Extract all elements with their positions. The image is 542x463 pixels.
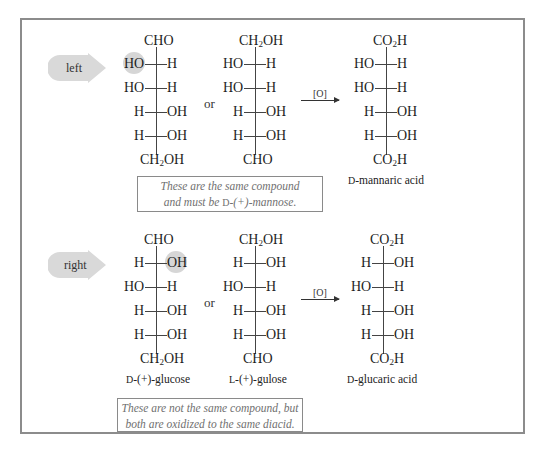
row1-left: H [134, 255, 144, 271]
bond [145, 287, 167, 288]
bond [145, 112, 167, 113]
row1-left: H [233, 255, 243, 271]
bond [244, 88, 266, 89]
bond [145, 263, 167, 264]
bond [244, 287, 266, 288]
bond [372, 287, 394, 288]
product-bottom-group: CO2H [373, 152, 407, 168]
row1-right: OH [266, 255, 286, 271]
row4-left: H [134, 128, 144, 144]
row3-right: OH [167, 104, 187, 120]
bond [375, 64, 397, 65]
row2-right: H [266, 279, 276, 295]
row2-right: H [167, 279, 177, 295]
tag-right-label: right [64, 257, 87, 273]
row2-right: H [167, 80, 177, 96]
fischer-bottom-group: CH2OH [140, 351, 184, 367]
row3-right: OH [397, 104, 417, 120]
row4-right: OH [266, 327, 286, 343]
bond [244, 136, 266, 137]
row3-right: OH [266, 303, 286, 319]
bond [372, 335, 394, 336]
note-same-compound: These are the same compound and must be … [137, 176, 323, 212]
row1-right: H [167, 56, 177, 72]
fischer-top-group: CH2OH [239, 232, 283, 248]
row1-left: H [361, 255, 371, 271]
compound-name-gulose: L-(+)-gulose [229, 373, 287, 385]
reagent-label: [O] [313, 287, 327, 298]
row4-right: OH [167, 128, 187, 144]
bond [372, 311, 394, 312]
product-bottom-group: CO2H [370, 351, 404, 367]
bond [244, 64, 266, 65]
row1-left: HO [354, 56, 374, 72]
bond [145, 136, 167, 137]
row2-left: HO [124, 80, 144, 96]
row1-right: H [266, 56, 276, 72]
row3-right: OH [167, 303, 187, 319]
fischer-bottom-group: CHO [243, 351, 273, 367]
row2-left: HO [223, 80, 243, 96]
product-name: D-glucaric acid [347, 373, 417, 385]
bond [375, 88, 397, 89]
row3-left: H [134, 104, 144, 120]
row3-right: OH [394, 303, 414, 319]
bond [145, 311, 167, 312]
row1-left: HO [223, 56, 243, 72]
fischer-top-group: CHO [144, 33, 174, 49]
row4-left: H [134, 327, 144, 343]
row2-left: HO [223, 279, 243, 295]
reagent-label: [O] [313, 88, 327, 99]
bond [244, 112, 266, 113]
fischer-top-group: CH2OH [239, 33, 283, 49]
row2-right: H [266, 80, 276, 96]
row1-right: OH [167, 255, 187, 271]
row4-left: H [233, 327, 243, 343]
row4-left: H [233, 128, 243, 144]
row2-right: H [397, 80, 407, 96]
fischer-bottom-group: CHO [243, 152, 273, 168]
bond [244, 311, 266, 312]
fischer-top-group: CHO [144, 232, 174, 248]
bond [375, 136, 397, 137]
reaction-arrow [301, 100, 339, 101]
tag-left-label: left [66, 60, 82, 76]
row1-right: H [397, 56, 407, 72]
bond [375, 112, 397, 113]
row2-left: HO [124, 279, 144, 295]
row1-left: HO [124, 56, 144, 72]
row4-left: H [361, 327, 371, 343]
bond [145, 335, 167, 336]
bond [244, 335, 266, 336]
bond [145, 88, 167, 89]
product-name: D-mannaric acid [348, 174, 424, 186]
row4-right: OH [266, 128, 286, 144]
row4-right: OH [397, 128, 417, 144]
row3-left: H [233, 104, 243, 120]
row1-right: OH [394, 255, 414, 271]
row3-left: H [233, 303, 243, 319]
note-not-same-compound: These are not the same compound, but bot… [117, 398, 303, 432]
product-top-group: CO2H [373, 33, 407, 49]
row4-left: H [364, 128, 374, 144]
reaction-arrow [301, 299, 339, 300]
row4-right: OH [167, 327, 187, 343]
row3-right: OH [266, 104, 286, 120]
bond [145, 64, 167, 65]
bond [372, 263, 394, 264]
row2-left: HO [351, 279, 371, 295]
product-top-group: CO2H [370, 232, 404, 248]
row4-right: OH [394, 327, 414, 343]
row3-left: H [364, 104, 374, 120]
row2-left: HO [354, 80, 374, 96]
row2-right: H [394, 279, 404, 295]
or-connector: or [204, 295, 215, 311]
compound-name-glucose: D-(+)-glucose [126, 373, 190, 385]
row3-left: H [134, 303, 144, 319]
fischer-bottom-group: CH2OH [140, 152, 184, 168]
row3-left: H [361, 303, 371, 319]
bond [244, 263, 266, 264]
or-connector: or [204, 96, 215, 112]
